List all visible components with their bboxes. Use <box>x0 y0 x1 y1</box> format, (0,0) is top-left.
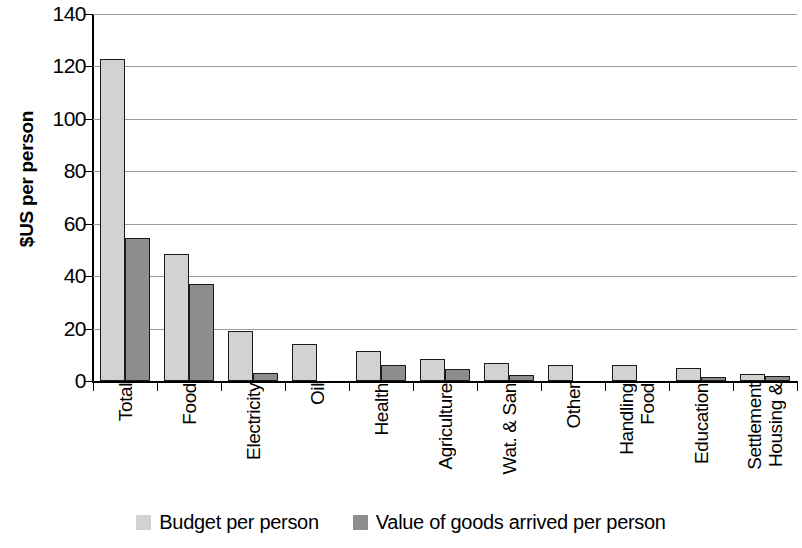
gridline <box>93 276 797 277</box>
bar-budget-wat-san <box>484 363 509 381</box>
legend-swatch-light <box>136 515 151 530</box>
x-axis-label-oil: Oil <box>285 383 349 501</box>
bar-budget-oil <box>292 344 317 381</box>
bar-budget-health <box>356 351 381 381</box>
bar-budget-other <box>548 365 573 381</box>
bar-budget-education <box>676 368 701 381</box>
x-axis-label-wat-san: Wat. & San <box>477 383 541 501</box>
bar-value-education <box>701 377 726 381</box>
x-axis-label-agriculture: Agriculture <box>413 383 477 501</box>
y-axis-tick-mark <box>85 329 93 330</box>
x-axis-label-health: Health <box>349 383 413 501</box>
y-axis-tick-label: 40 <box>30 265 86 286</box>
y-axis-tick-mark <box>85 276 93 277</box>
bar-value-wat-san <box>509 375 534 381</box>
x-axis-category-labels: TotalFoodElectricityOilHealthAgriculture… <box>93 383 797 501</box>
y-axis-tick-mark <box>85 171 93 172</box>
bar-value-agriculture <box>445 369 470 381</box>
bar-value-food <box>189 284 214 381</box>
y-axis-tick-label: 0 <box>30 370 86 391</box>
x-axis-label-housing-settlement: Housing &Settlement <box>733 383 797 501</box>
x-axis-label-line: Housing & <box>765 383 786 467</box>
y-axis-line <box>92 14 94 382</box>
gridline <box>93 224 797 225</box>
chart-legend: Budget per personValue of goods arrived … <box>0 512 802 532</box>
x-axis-label-line: Education <box>691 383 712 464</box>
plot-area <box>93 14 797 381</box>
bar-value-housing-settlement <box>765 376 790 381</box>
bar-value-total <box>125 238 150 381</box>
bar-value-electricity <box>253 373 278 381</box>
legend-swatch-dark <box>353 515 368 530</box>
y-axis-tick-mark <box>85 381 93 382</box>
y-axis-tick-mark <box>85 224 93 225</box>
bar-budget-agriculture <box>420 359 445 381</box>
x-axis-label-line: Agriculture <box>435 383 456 469</box>
bar-budget-housing-settlement <box>740 374 765 381</box>
x-axis-label-line: Health <box>371 383 392 436</box>
x-axis-label-line: Settlement <box>744 383 765 470</box>
gridline <box>93 171 797 172</box>
legend-label: Budget per person <box>159 512 318 532</box>
x-axis-label-line: Food <box>179 383 200 425</box>
y-axis-tick-label: 60 <box>30 213 86 234</box>
x-axis-label-education: Education <box>669 383 733 501</box>
legend-item-1: Budget per person <box>136 512 318 532</box>
legend-item-2: Value of goods arrived per person <box>353 512 666 532</box>
y-axis-tick-mark <box>85 119 93 120</box>
y-axis-tick-label: 100 <box>30 108 86 129</box>
bar-budget-electricity <box>228 331 253 381</box>
x-axis-label-electricity: Electricity <box>221 383 285 501</box>
x-axis-label-other: Other <box>541 383 605 501</box>
y-axis-tick-label: 120 <box>30 55 86 76</box>
x-axis-label-line: Wat. & San <box>499 383 520 474</box>
y-axis-tick-labels: 020406080100120140 <box>30 0 86 400</box>
x-axis-label-line: Handling <box>616 383 637 455</box>
legend-label: Value of goods arrived per person <box>376 512 666 532</box>
x-axis-label-line: Other <box>563 383 584 429</box>
x-axis-tick-mark <box>797 382 798 391</box>
y-axis-tick-label: 20 <box>30 318 86 339</box>
gridline <box>93 14 797 15</box>
bar-value-health <box>381 365 406 381</box>
x-axis-label-line: Total <box>115 383 136 421</box>
x-axis-label-total: Total <box>93 383 157 501</box>
y-axis-tick-mark <box>85 14 93 15</box>
x-axis-label-line: Oil <box>307 383 328 405</box>
gridline <box>93 119 797 120</box>
bar-chart: $US per person 020406080100120140 TotalF… <box>0 0 802 548</box>
bar-budget-food <box>164 254 189 381</box>
y-axis-tick-label: 80 <box>30 160 86 181</box>
x-axis-label-line: Food <box>637 383 658 425</box>
gridline <box>93 66 797 67</box>
bar-budget-food-handling <box>612 365 637 381</box>
x-axis-label-line: Electricity <box>243 383 264 460</box>
bar-budget-total <box>100 59 125 381</box>
y-axis-tick-mark <box>85 66 93 67</box>
x-axis-label-food-handling: FoodHandling <box>605 383 669 501</box>
x-axis-label-food: Food <box>157 383 221 501</box>
y-axis-tick-label: 140 <box>30 3 86 24</box>
